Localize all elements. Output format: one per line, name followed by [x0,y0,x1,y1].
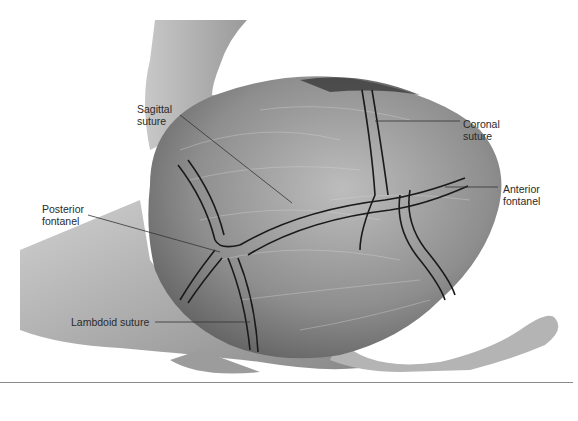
label-line: fontanel [503,195,540,207]
label-line: Sagittal [137,103,172,115]
head [148,76,501,358]
label-line: suture [137,115,172,127]
label-lambdoid-suture: Lambdoid suture [71,316,149,328]
bottom-divider [0,382,573,383]
label-anterior-fontanel: Anterior fontanel [503,183,540,207]
label-line: Posterior [42,203,84,215]
label-line: Coronal [463,118,500,130]
label-line: fontanel [42,215,84,227]
skull-illustration [0,0,578,421]
label-sagittal-suture: Sagittal suture [137,103,172,127]
label-line: suture [463,130,500,142]
label-line: Lambdoid suture [71,316,149,328]
label-coronal-suture: Coronal suture [463,118,500,142]
label-posterior-fontanel: Posterior fontanel [42,203,84,227]
label-line: Anterior [503,183,540,195]
